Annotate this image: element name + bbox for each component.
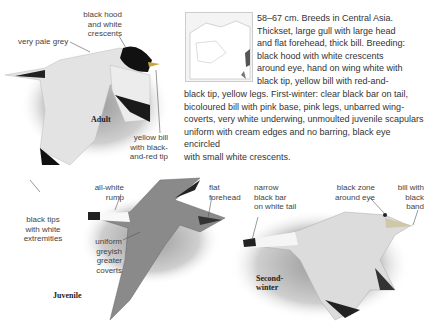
age-tag-adult: Adult <box>91 115 111 124</box>
text-line: 58–67 cm. Breeds in Central Asia. <box>257 12 405 25</box>
text-line: uniform with cream edges and no barring,… <box>184 126 429 151</box>
label-very-pale-grey: very pale grey <box>18 37 68 47</box>
label-black-zone-eye: black zonearound eye <box>325 183 375 202</box>
text-line: with small white crescents. <box>184 151 429 164</box>
text-line: black tip, yellow legs. First-winter: cl… <box>184 88 429 101</box>
text-line: black hood with white crescents <box>257 50 405 63</box>
label-uniform-greyish-coverts: uniformgreyishgreatercoverts <box>88 237 122 275</box>
text-line: and flat forehead, thick bill. Breeding: <box>257 37 405 50</box>
text-line: coverts, very white underwing, unmoulted… <box>184 113 429 126</box>
label-flat-forehead: flatforehead <box>209 183 241 202</box>
text-line: bicoloured bill with pink base, pink leg… <box>184 101 429 114</box>
label-yellow-bill: yellow billwith black-and-red tip <box>126 133 168 162</box>
label-all-white-rump: all-whiterump <box>86 183 124 202</box>
label-black-tips: black tipswith whiteextremities <box>20 215 66 244</box>
species-description-top: 58–67 cm. Breeds in Central Asia. Thicks… <box>257 12 405 88</box>
text-line: Thickset, large gull with large head <box>257 25 405 38</box>
label-narrow-black-bar: narrowblack baron white tail <box>254 183 296 212</box>
map-icon <box>186 13 252 81</box>
range-map <box>185 12 253 82</box>
age-tag-second-winter: Second-winter <box>256 274 283 292</box>
label-black-hood: black hoodand whitecrescents <box>80 10 122 39</box>
species-description-bottom: black tip, yellow legs. First-winter: cl… <box>184 88 429 164</box>
age-tag-juvenile: Juvenile <box>53 291 81 300</box>
text-line: black tip, yellow bill with red-and- <box>257 75 405 88</box>
label-bill-black-band: bill withblackband <box>384 183 424 212</box>
text-line: around eye, hand on wing white with <box>257 62 405 75</box>
second-winter-gull-illustration <box>230 210 414 320</box>
